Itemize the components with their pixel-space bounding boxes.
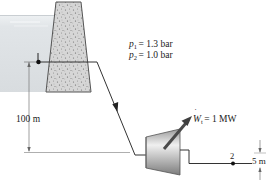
outlet-dimension: 5 m: [252, 140, 266, 180]
work-dot-accent: ·: [194, 105, 197, 114]
pressure-labels: p1= 1.3 bar p2= 1.0 bar: [128, 39, 173, 61]
outlet: [180, 150, 252, 164]
svg-text:Wt= 1 MW: Wt= 1 MW: [193, 114, 237, 125]
diagram-canvas: 100 m 1 p1= 1.3 bar p2= 1.0 bar Wt= 1 MW…: [0, 0, 272, 183]
svg-text:p2= 1.0 bar: p2= 1.0 bar: [128, 50, 173, 61]
flow-direction-arrow-icon: [112, 102, 118, 112]
state-point-1-label: 1: [34, 53, 38, 61]
outlet-dimension-label: 5 m: [252, 156, 266, 166]
state-point-2-label: 2: [230, 151, 234, 161]
svg-text:p1= 1.3 bar: p1= 1.3 bar: [128, 39, 173, 50]
head-label: 100 m: [16, 114, 41, 124]
